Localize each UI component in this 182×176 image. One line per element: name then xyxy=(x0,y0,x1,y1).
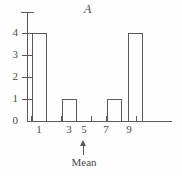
x-tick-label-1: 1 xyxy=(32,123,46,135)
y-tick-label-3: 3 xyxy=(6,49,18,60)
y-tick-label-3-wrap: 3 xyxy=(0,49,34,60)
x-tick-label-3: 3 xyxy=(62,123,76,135)
y-axis-top-cap xyxy=(21,12,34,13)
y-tick-label-2-wrap: 2 xyxy=(0,71,34,82)
x-tick-label-5: 5 xyxy=(77,123,91,135)
chart-figure: A 4 3 2 1 0 xyxy=(0,0,182,176)
plot-area: A 4 3 2 1 0 xyxy=(0,0,182,176)
y-tick-label-1-wrap: 1 xyxy=(0,93,34,104)
bar-x-7 xyxy=(107,99,122,122)
x-axis-line xyxy=(27,121,172,122)
bar-x-1 xyxy=(32,33,47,122)
mean-annotation: Mean xyxy=(58,138,118,174)
y-tick-label-1: 1 xyxy=(6,93,18,104)
y-tick-label-4-wrap: 4 xyxy=(0,27,34,38)
x-tick-edge-5 xyxy=(91,116,92,122)
y-tick-label-2: 2 xyxy=(6,71,18,82)
x-tick-label-7: 7 xyxy=(99,123,113,135)
y-tick-label-0: 0 xyxy=(6,115,18,126)
mean-label: Mean xyxy=(58,156,110,169)
y-tick-label-4: 4 xyxy=(6,27,18,38)
arrow-shaft xyxy=(83,144,84,155)
chart-title: A xyxy=(84,3,91,16)
bar-x-3 xyxy=(62,99,77,122)
x-tick-label-9: 9 xyxy=(122,123,136,135)
bar-x-9 xyxy=(128,33,143,122)
